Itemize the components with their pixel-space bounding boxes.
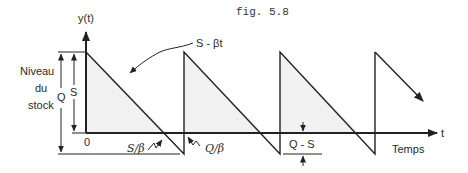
time-axis-label: t [441, 127, 444, 139]
y-caption-line-3: stock [28, 99, 54, 111]
y-axis-label: y(t) [78, 12, 94, 24]
origin-label: 0 [84, 136, 90, 148]
tick-Q-over-beta-label: Q/β [205, 142, 224, 155]
tick-S-over-beta-label: S/β [127, 142, 145, 155]
shortage-label: Q - S [289, 138, 315, 150]
y-caption-line-2: du [35, 82, 47, 94]
tick-Q-over-beta-leader [188, 137, 200, 146]
tick-S-over-beta-leader [148, 140, 162, 150]
slope-label: S - βt [196, 37, 223, 49]
dimension-Q-label: Q [57, 91, 66, 103]
y-caption-line-1: Niveau [20, 65, 54, 77]
dimension-S-label: S [70, 86, 77, 98]
inventory-curve-continuation [375, 52, 423, 101]
time-axis-caption: Temps [392, 143, 425, 155]
inventory-sawtooth-diagram: fig. 5.8 y(t) t Temps 0 Niveau du stock … [0, 0, 468, 173]
figure-title: fig. 5.8 [236, 6, 289, 18]
